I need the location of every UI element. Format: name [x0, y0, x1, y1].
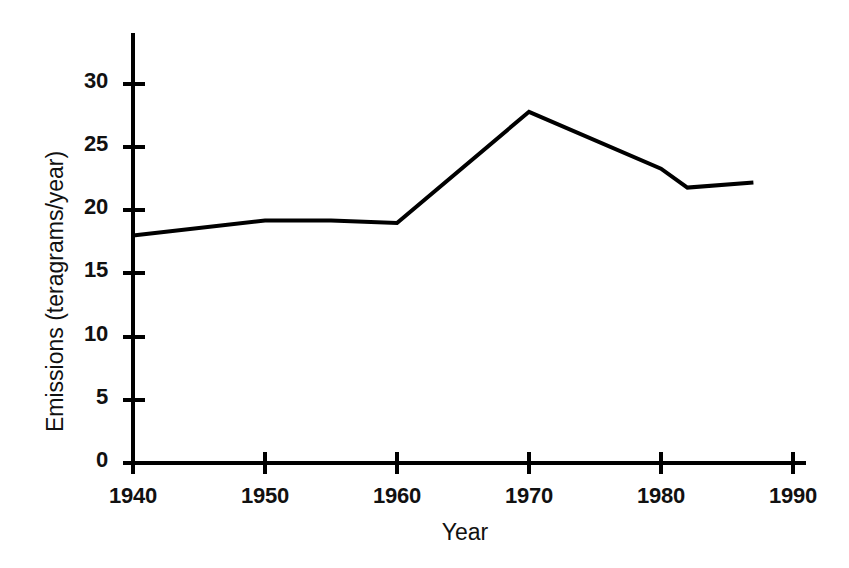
chart-figure: 0 5 10 15 20 25 30 1940 1950 1960 1970 1… — [0, 0, 849, 568]
x-tick-label-1990: 1990 — [738, 483, 848, 509]
y-tick-label-0: 0 — [60, 447, 108, 473]
y-tick-label-30: 30 — [60, 68, 108, 94]
x-tick-label-1940: 1940 — [78, 483, 188, 509]
emissions-data-line — [133, 112, 753, 236]
y-axis-title: Emissions (teragrams/year) — [42, 151, 69, 432]
x-tick-label-1980: 1980 — [606, 483, 716, 509]
x-tick-label-1960: 1960 — [342, 483, 452, 509]
x-tick-label-1950: 1950 — [210, 483, 320, 509]
x-tick-label-1970: 1970 — [474, 483, 584, 509]
x-axis-title: Year — [405, 519, 525, 546]
